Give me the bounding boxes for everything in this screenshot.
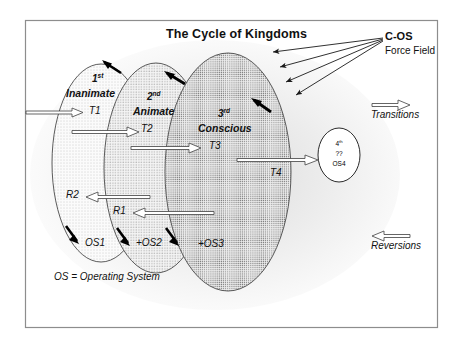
kingdom-2-ordinal-suffix: nd [153, 90, 161, 97]
kingdom-4-ordinal-suffix: th [339, 139, 343, 144]
force-field-label: C-OS [385, 31, 413, 43]
kingdom-3-ordinal: 3rd [218, 108, 230, 120]
transition-label-t2: T2 [141, 124, 153, 135]
kingdom-4-os: OS4 [322, 160, 356, 167]
legend-note: OS = Operating System [54, 272, 160, 283]
os-label-3: +OS3 [198, 239, 224, 250]
legend-transitions-label: Transitions [371, 110, 419, 121]
kingdom-3-ordinal-suffix: rd [224, 107, 231, 114]
legend-reversions-label: Reversions [371, 241, 421, 252]
transition-label-t3: T3 [209, 141, 221, 152]
page-title: The Cycle of Kingdoms [166, 28, 307, 41]
os-label-2: +OS2 [136, 238, 162, 249]
transition-label-t4: T4 [270, 168, 282, 179]
kingdom-3-name: Conscious [198, 123, 252, 134]
kingdom-1-name: Inanimate [66, 88, 115, 99]
transition-label-t1: T1 [89, 106, 101, 117]
kingdom-4-unknown: ?? [322, 150, 356, 157]
kingdom-4-ordinal: 4th [322, 139, 356, 147]
reversion-label-r2: R2 [66, 190, 79, 201]
kingdom-2-name: Animate [133, 106, 174, 117]
kingdom-1-ordinal-suffix: st [98, 72, 104, 79]
kingdom-2-ordinal: 2nd [147, 91, 161, 103]
force-field-sublabel: Force Field [385, 46, 435, 57]
reversion-label-r1: R1 [113, 206, 126, 217]
os-label-1: OS1 [85, 238, 105, 249]
kingdom-1-ordinal: 1st [92, 73, 103, 85]
